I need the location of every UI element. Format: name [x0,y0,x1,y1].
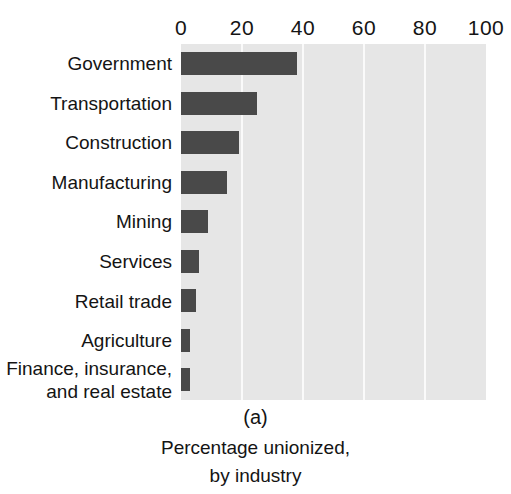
plot-area [181,44,486,400]
category-label-line: Finance, insurance, [6,357,172,380]
bar-row [181,44,486,84]
bar-row [181,242,486,282]
x-tick-label-80: 80 [413,16,437,40]
category-label-retail-trade: Retail trade [0,281,172,321]
bar-construction [181,131,239,154]
bar-row [181,163,486,203]
category-label-manufacturing: Manufacturing [0,163,172,203]
category-label-line: Retail trade [75,290,172,313]
bar-transportation [181,92,257,115]
category-label-government: Government [0,44,172,84]
bars-layer [181,44,486,400]
bar-chart-figure: 020406080100 GovernmentTransportationCon… [0,0,511,494]
x-tick-label-20: 20 [230,16,254,40]
bar-row [181,123,486,163]
category-label-line: and real estate [46,380,172,403]
bar-row [181,360,486,400]
bar-finance-insurance-and-real-estate [181,368,190,391]
category-label-finance-insurance-and-real-estate: Finance, insurance,and real estate [0,360,172,400]
bar-row [181,281,486,321]
x-tick-label-40: 40 [291,16,315,40]
category-label-line: Agriculture [81,329,172,352]
x-tick-label-0: 0 [175,16,187,40]
caption-line-2: by industry [0,462,511,490]
category-label-services: Services [0,242,172,282]
category-label-transportation: Transportation [0,84,172,124]
figure-caption: (a) Percentage unionized, by industry [0,404,511,490]
category-label-construction: Construction [0,123,172,163]
bar-row [181,321,486,361]
bar-agriculture [181,329,190,352]
category-label-line: Mining [116,210,172,233]
bar-services [181,250,199,273]
x-tick-label-60: 60 [352,16,376,40]
bar-government [181,52,297,75]
x-tick-label-100: 100 [468,16,505,40]
x-axis-tick-labels: 020406080100 [181,16,486,42]
category-label-line: Transportation [50,92,172,115]
category-label-line: Government [67,52,172,75]
bar-mining [181,210,208,233]
category-label-line: Construction [65,131,172,154]
panel-label: (a) [0,404,511,431]
bar-manufacturing [181,171,227,194]
bar-row [181,202,486,242]
bar-retail-trade [181,289,196,312]
category-label-line: Services [99,250,172,273]
category-axis-labels: GovernmentTransportationConstructionManu… [0,44,172,400]
category-label-mining: Mining [0,202,172,242]
category-label-agriculture: Agriculture [0,321,172,361]
category-label-line: Manufacturing [52,171,172,194]
caption-line-1: Percentage unionized, [0,434,511,462]
bar-row [181,84,486,124]
